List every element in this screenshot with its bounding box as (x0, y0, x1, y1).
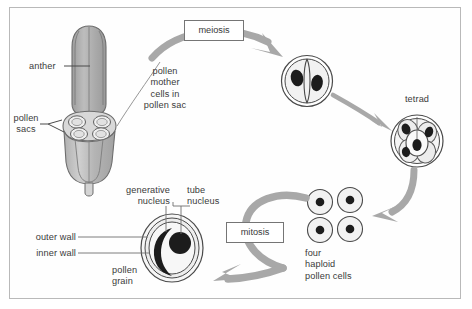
label-tube-nucleus: tube nucleus (187, 185, 219, 208)
label-pollen-sacs: pollen sacs (8, 113, 44, 136)
two-cell-stage (282, 56, 333, 107)
label-pollen-mother-cells: pollen mother cells in pollen sac (122, 66, 208, 112)
tetrad-to-four-cells-arrow (372, 170, 414, 222)
diagram-graphics (0, 0, 472, 309)
label-generative-nucleus: generative nucleus (116, 185, 170, 208)
four-haploid-cells-stage (308, 188, 363, 243)
haploid-cell (338, 188, 363, 213)
label-tetrad: tetrad (394, 94, 440, 105)
label-anther: anther (29, 61, 56, 72)
label-inner-wall: inner wall (18, 248, 76, 259)
label-pollen-grain: pollen grain (112, 265, 137, 288)
two-cell-to-tetrad-arrow (333, 95, 392, 131)
haploid-cell (308, 218, 333, 243)
pollen-formation-diagram: anther pollen sacs pollen mother cells i… (0, 0, 472, 309)
label-four-haploid-pollen-cells: four haploid pollen cells (305, 248, 352, 282)
pollen-grain-illustration (78, 202, 203, 282)
anther-illustration (63, 26, 116, 196)
tetrad-stage (391, 115, 443, 167)
label-outer-wall: outer wall (18, 232, 76, 243)
haploid-cell (308, 190, 333, 215)
haploid-cell (338, 217, 363, 242)
stage-box-mitosis[interactable]: mitosis (226, 222, 284, 243)
stage-box-meiosis[interactable]: meiosis (184, 20, 244, 41)
